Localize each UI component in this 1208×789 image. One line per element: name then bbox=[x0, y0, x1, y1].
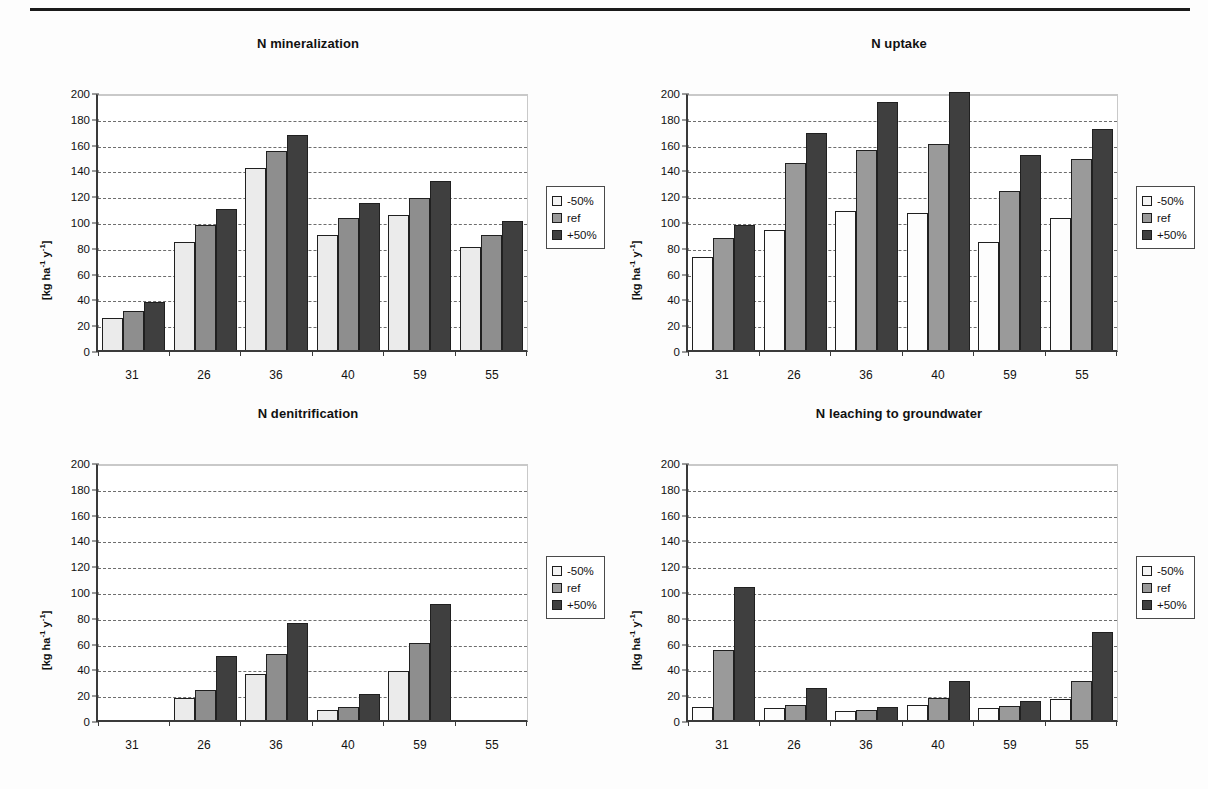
bar[interactable] bbox=[287, 623, 308, 720]
x-tick-label: 59 bbox=[384, 368, 456, 382]
legend-item-ref[interactable]: ref bbox=[1142, 209, 1187, 226]
bar[interactable] bbox=[174, 698, 195, 720]
legend-item-ref[interactable]: ref bbox=[552, 209, 597, 226]
bar[interactable] bbox=[216, 656, 237, 721]
bar[interactable] bbox=[928, 144, 949, 350]
bar[interactable] bbox=[359, 203, 380, 350]
y-tick-mark bbox=[682, 171, 689, 172]
x-tick-label: 40 bbox=[902, 738, 974, 752]
bar[interactable] bbox=[502, 221, 523, 350]
bar[interactable] bbox=[123, 311, 144, 350]
bar[interactable] bbox=[692, 707, 713, 720]
bar[interactable] bbox=[388, 671, 409, 720]
y-tick-mark bbox=[92, 223, 99, 224]
x-tick-mark bbox=[240, 350, 241, 356]
legend-item-plus50[interactable]: +50% bbox=[552, 596, 597, 613]
bar[interactable] bbox=[806, 688, 827, 720]
y-tick-label: 100 bbox=[56, 587, 90, 599]
bar[interactable] bbox=[764, 230, 785, 350]
bar[interactable] bbox=[338, 218, 359, 350]
bar[interactable] bbox=[1071, 159, 1092, 350]
bar[interactable] bbox=[978, 242, 999, 350]
bar[interactable] bbox=[1020, 701, 1041, 720]
bar[interactable] bbox=[266, 151, 287, 350]
chart-legend: -50%ref+50% bbox=[1136, 556, 1195, 619]
x-tick-mark bbox=[973, 350, 974, 356]
x-tick-mark bbox=[526, 350, 527, 356]
bar[interactable] bbox=[1050, 699, 1071, 720]
bar[interactable] bbox=[835, 211, 856, 350]
y-tick-label: 60 bbox=[646, 639, 680, 651]
bar[interactable] bbox=[195, 690, 216, 720]
bar[interactable] bbox=[856, 150, 877, 350]
bar[interactable] bbox=[1092, 129, 1113, 350]
legend-item-plus50[interactable]: +50% bbox=[1142, 226, 1187, 243]
legend-item-plus50[interactable]: +50% bbox=[1142, 596, 1187, 613]
bar[interactable] bbox=[460, 247, 481, 350]
bar[interactable] bbox=[216, 209, 237, 350]
bar[interactable] bbox=[928, 698, 949, 720]
bar[interactable] bbox=[734, 587, 755, 720]
bar[interactable] bbox=[430, 181, 451, 350]
bar[interactable] bbox=[388, 215, 409, 350]
legend-swatch-icon bbox=[1142, 230, 1152, 240]
bar-groups bbox=[98, 95, 527, 350]
bar[interactable] bbox=[1020, 155, 1041, 350]
y-tick-mark bbox=[92, 618, 99, 619]
bar[interactable] bbox=[856, 710, 877, 720]
bar[interactable] bbox=[734, 225, 755, 350]
bar[interactable] bbox=[877, 707, 898, 720]
y-tick-label: 40 bbox=[646, 664, 680, 676]
bar[interactable] bbox=[999, 706, 1020, 720]
chart-title: N denitrification bbox=[18, 406, 598, 421]
bar[interactable] bbox=[877, 102, 898, 350]
bar[interactable] bbox=[806, 133, 827, 350]
legend-item-minus50[interactable]: -50% bbox=[552, 562, 597, 579]
bar[interactable] bbox=[949, 681, 970, 720]
bar[interactable] bbox=[1092, 632, 1113, 720]
y-tick-label: 140 bbox=[56, 165, 90, 177]
bar[interactable] bbox=[692, 257, 713, 350]
x-tick-mark bbox=[455, 350, 456, 356]
bar[interactable] bbox=[713, 238, 734, 350]
bar[interactable] bbox=[978, 708, 999, 720]
bar[interactable] bbox=[245, 168, 266, 350]
legend-item-minus50[interactable]: -50% bbox=[1142, 192, 1187, 209]
bar[interactable] bbox=[907, 213, 928, 350]
bar[interactable] bbox=[195, 225, 216, 350]
bar[interactable] bbox=[409, 198, 430, 350]
legend-item-ref[interactable]: ref bbox=[552, 579, 597, 596]
legend-swatch-icon bbox=[1142, 566, 1152, 576]
bar[interactable] bbox=[1071, 681, 1092, 720]
bar[interactable] bbox=[430, 604, 451, 720]
bar[interactable] bbox=[1050, 218, 1071, 350]
legend-swatch-icon bbox=[552, 196, 562, 206]
bar[interactable] bbox=[102, 318, 123, 350]
bar[interactable] bbox=[174, 242, 195, 350]
bar[interactable] bbox=[287, 135, 308, 350]
bar[interactable] bbox=[409, 643, 430, 720]
chart-title: N mineralization bbox=[18, 36, 598, 51]
legend-item-minus50[interactable]: -50% bbox=[552, 192, 597, 209]
bar[interactable] bbox=[266, 654, 287, 720]
x-tick-label: 31 bbox=[96, 368, 168, 382]
bar[interactable] bbox=[317, 710, 338, 720]
bar[interactable] bbox=[144, 302, 165, 350]
bar[interactable] bbox=[999, 191, 1020, 350]
bar[interactable] bbox=[481, 235, 502, 350]
bar[interactable] bbox=[785, 705, 806, 720]
bar[interactable] bbox=[245, 674, 266, 720]
bar[interactable] bbox=[785, 163, 806, 350]
bar[interactable] bbox=[907, 705, 928, 720]
bar[interactable] bbox=[713, 650, 734, 720]
bar[interactable] bbox=[359, 694, 380, 720]
legend-item-ref[interactable]: ref bbox=[1142, 579, 1187, 596]
legend-item-plus50[interactable]: +50% bbox=[552, 226, 597, 243]
bar[interactable] bbox=[835, 711, 856, 720]
bar[interactable] bbox=[338, 707, 359, 720]
legend-item-minus50[interactable]: -50% bbox=[1142, 562, 1187, 579]
y-tick-label: 40 bbox=[56, 664, 90, 676]
bar[interactable] bbox=[317, 235, 338, 350]
bar[interactable] bbox=[949, 92, 970, 350]
bar[interactable] bbox=[764, 708, 785, 720]
